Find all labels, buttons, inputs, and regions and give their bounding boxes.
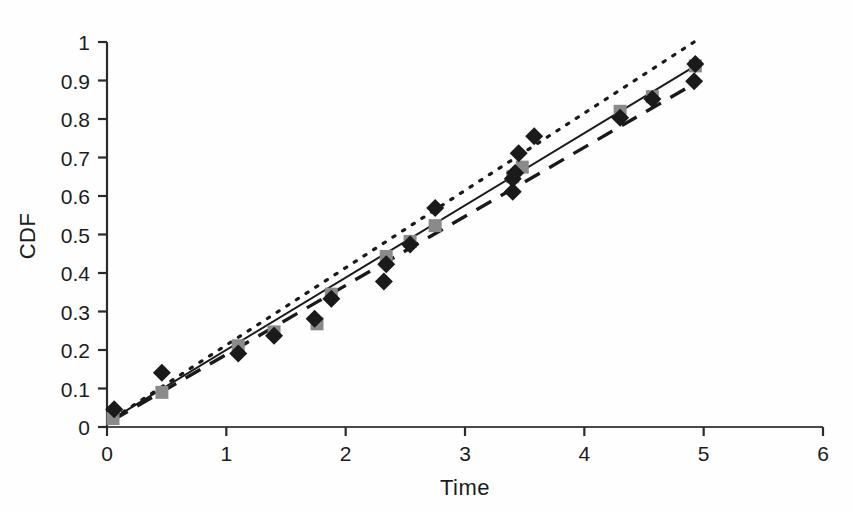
y-tick-label-1: 0.1 (0, 378, 90, 399)
x-tick-label-1: 1 (220, 443, 232, 464)
y-tick-label-2: 0.2 (0, 340, 90, 361)
y-tick-label-9: 0.9 (0, 70, 90, 91)
x-axis-title: Time (365, 475, 565, 501)
y-tick-label-3: 0.3 (0, 301, 90, 322)
y-tick-label-10: 1 (0, 32, 90, 53)
upper-confidence-bound (113, 42, 694, 419)
y-tick-label-6: 0.6 (0, 186, 90, 207)
x-tick-label-4: 4 (578, 443, 590, 464)
fit-lines-group (113, 42, 697, 420)
y-tick-label-7: 0.7 (0, 147, 90, 168)
data-marker-6 (375, 272, 393, 290)
data-marker-13 (510, 144, 528, 162)
y-tick-label-4: 0.4 (0, 263, 90, 284)
x-tick-label-0: 0 (101, 443, 113, 464)
chart-figure: 00.10.20.30.40.50.60.70.80.91 0123456 CD… (0, 0, 852, 513)
lower-confidence-bound (113, 82, 697, 420)
fit-marker-1 (155, 386, 168, 399)
axes-group (98, 42, 823, 436)
y-tick-label-8: 0.8 (0, 109, 90, 130)
x-tick-label-2: 2 (340, 443, 352, 464)
x-tick-label-5: 5 (698, 443, 710, 464)
plot-canvas (0, 0, 852, 513)
x-tick-label-3: 3 (459, 443, 471, 464)
x-tick-label-6: 6 (817, 443, 829, 464)
y-axis-title: CDF (15, 196, 41, 276)
fit-marker-8 (429, 219, 442, 232)
data-marker-1 (153, 364, 171, 382)
y-tick-label-5: 0.5 (0, 224, 90, 245)
data-marker-17 (685, 72, 703, 90)
y-tick-label-0: 0 (0, 417, 90, 438)
data-marker-9 (426, 199, 444, 217)
